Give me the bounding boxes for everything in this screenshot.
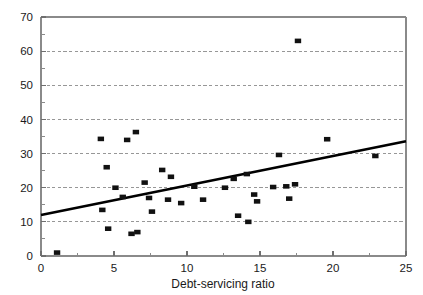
data-point [141, 180, 147, 185]
data-point [276, 153, 282, 158]
data-point [120, 195, 126, 200]
data-point [324, 137, 330, 142]
data-point [295, 39, 301, 44]
trend-line [41, 141, 406, 215]
data-point [104, 165, 110, 170]
x-tick-label-25: 25 [400, 262, 413, 274]
y-axis-ticks [41, 17, 46, 256]
x-tick-label-0: 0 [38, 262, 44, 274]
data-point [270, 185, 276, 190]
data-point [292, 182, 298, 187]
data-point [105, 226, 111, 231]
data-point [168, 174, 174, 179]
data-point [128, 232, 134, 237]
data-points-group [54, 39, 379, 255]
data-point [244, 172, 250, 177]
data-point [286, 196, 292, 201]
data-point [283, 184, 289, 189]
data-point [372, 154, 378, 159]
x-tick-label-20: 20 [327, 262, 340, 274]
x-tick-label-5: 5 [111, 262, 117, 274]
data-point [133, 130, 139, 135]
x-axis-title: Debt-servicing ratio [171, 277, 275, 291]
y-tick-label-0: 0 [27, 250, 33, 262]
y-axis-tick-labels: 010203040506070 [20, 11, 33, 262]
trend-line-group [41, 141, 406, 215]
data-point [200, 197, 206, 202]
y-tick-label-40: 40 [20, 114, 33, 126]
data-point [165, 197, 171, 202]
x-axis-ticks [41, 251, 406, 256]
gridlines [41, 51, 406, 222]
scatter-chart-figure: 010203040506070 0510152025 Debt-servicin… [0, 0, 423, 295]
data-point [146, 196, 152, 201]
plot-frame [41, 17, 406, 256]
y-tick-label-20: 20 [20, 182, 33, 194]
data-point [191, 184, 197, 189]
data-point [222, 185, 228, 190]
data-point [124, 138, 130, 143]
data-point [134, 230, 140, 235]
data-point [149, 209, 155, 214]
x-tick-label-15: 15 [254, 262, 267, 274]
y-tick-label-30: 30 [20, 148, 33, 160]
data-point [235, 213, 241, 218]
data-point [254, 199, 260, 204]
data-point [245, 220, 251, 225]
data-point [112, 185, 118, 190]
y-tick-label-10: 10 [20, 216, 33, 228]
data-point [178, 201, 184, 206]
data-point [159, 168, 165, 173]
data-point [231, 177, 237, 182]
y-tick-label-60: 60 [20, 45, 33, 57]
scatter-plot-svg: 010203040506070 0510152025 Debt-servicin… [0, 0, 423, 295]
y-tick-label-50: 50 [20, 79, 33, 91]
data-point [251, 192, 257, 197]
x-tick-label-10: 10 [181, 262, 194, 274]
data-point [54, 250, 60, 255]
data-point [98, 137, 104, 142]
data-point [99, 208, 105, 213]
x-axis-tick-labels: 0510152025 [38, 262, 413, 274]
y-tick-label-70: 70 [20, 11, 33, 23]
